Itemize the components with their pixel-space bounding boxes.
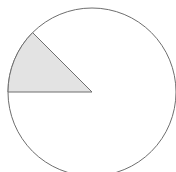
pie-chart	[0, 0, 176, 172]
